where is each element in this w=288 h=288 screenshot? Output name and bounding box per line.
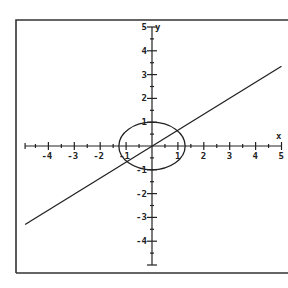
x-tick-label: 3: [227, 151, 232, 161]
y-tick-label: 5: [142, 22, 147, 32]
y-tick-label: 4: [142, 46, 148, 56]
tick-labels: -4-3-2-11234554321-1-2-3-4: [41, 22, 284, 246]
x-tick-label: -2: [93, 151, 104, 161]
y-tick-label: -4: [136, 236, 147, 246]
y-tick-label: -3: [136, 212, 147, 222]
x-tick-label: 4: [253, 151, 259, 161]
x-tick-label: 5: [279, 151, 284, 161]
y-tick-label: 3: [142, 70, 147, 80]
y-tick-label: -2: [136, 189, 147, 199]
x-axis-label: x: [276, 131, 282, 141]
x-tick-label: -4: [41, 151, 52, 161]
x-tick-label: -3: [67, 151, 78, 161]
y-axis-label: y: [155, 22, 161, 32]
x-tick-label: 2: [201, 151, 206, 161]
chart: -4-3-2-11234554321-1-2-3-4 y x: [0, 0, 288, 288]
y-tick-label: 2: [142, 93, 147, 103]
